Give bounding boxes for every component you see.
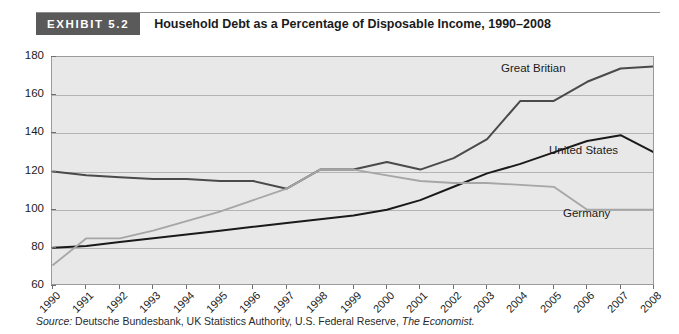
x-axis-tick (653, 285, 654, 289)
x-axis-tick (152, 285, 153, 289)
source-note: Source: Deutsche Bundesbank, UK Statisti… (36, 315, 475, 327)
y-axis-tick (51, 247, 56, 248)
x-axis-tick-label: 2006 (566, 289, 597, 320)
series-label-united-states: United States (549, 144, 618, 156)
y-axis-tick-label: 100 (14, 203, 44, 215)
x-axis-tick-label: 2008 (632, 289, 663, 320)
x-axis-tick-label: 2004 (499, 289, 530, 320)
x-axis-tick (519, 285, 520, 289)
x-axis-tick (319, 285, 320, 289)
x-axis-tick (219, 285, 220, 289)
exhibit-header: EXHIBIT 5.2 Household Debt as a Percenta… (36, 12, 660, 35)
source-body: Deutsche Bundesbank, UK Statistics Autho… (72, 315, 402, 327)
x-axis-tick-label: 2005 (532, 289, 563, 320)
x-axis-tick (386, 285, 387, 289)
plot-svg (52, 57, 654, 285)
plot-area (51, 56, 654, 285)
y-axis-tick-label: 80 (14, 241, 44, 253)
x-axis-tick (620, 285, 621, 289)
y-axis: 6080100120140160180 (8, 56, 44, 285)
series-label-great-britain: Great Britian (501, 62, 566, 74)
y-axis-tick-label: 120 (14, 165, 44, 177)
source-prefix: Source: (36, 315, 72, 327)
x-axis-tick (286, 285, 287, 289)
y-axis-tick-label: 160 (14, 88, 44, 100)
x-axis-tick (52, 285, 53, 289)
x-axis-tick (486, 285, 487, 289)
series-label-germany: Germany (563, 207, 610, 219)
y-axis-tick (51, 56, 56, 57)
y-axis-tick-label: 180 (14, 50, 44, 62)
x-axis-tick (586, 285, 587, 289)
x-axis-tick (85, 285, 86, 289)
y-axis-tick (51, 209, 56, 210)
x-axis-tick (353, 285, 354, 289)
exhibit-tag: EXHIBIT 5.2 (36, 13, 140, 35)
y-axis-tick (51, 132, 56, 133)
x-axis-tick (186, 285, 187, 289)
x-axis-tick (119, 285, 120, 289)
y-axis-tick-label: 140 (14, 127, 44, 139)
chart-container: 6080100120140160180 19901991199219931994… (0, 40, 679, 300)
x-axis-tick (252, 285, 253, 289)
source-publication: The Economist. (402, 315, 475, 327)
page-title: Household Debt as a Percentage of Dispos… (140, 13, 551, 35)
y-axis-tick (51, 94, 56, 95)
x-axis-tick (419, 285, 420, 289)
y-axis-tick-label: 60 (14, 279, 44, 291)
y-axis-tick (51, 171, 56, 172)
x-axis-tick (453, 285, 454, 289)
x-axis-tick (553, 285, 554, 289)
x-axis-tick-label: 2007 (599, 289, 630, 320)
